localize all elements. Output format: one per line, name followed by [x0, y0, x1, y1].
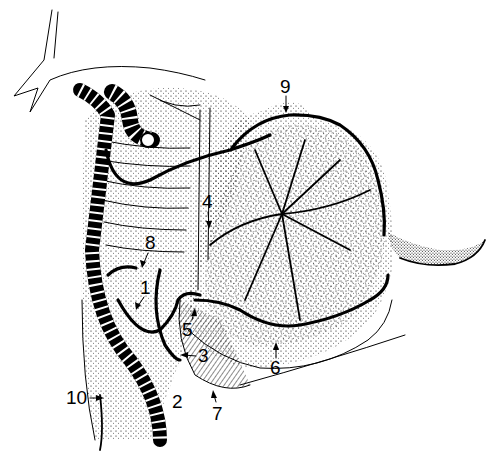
label-6-text: 6 [270, 357, 281, 378]
label-8-text: 8 [145, 232, 156, 253]
label-10-text: 10 [66, 387, 87, 408]
label-7: 7 [211, 390, 223, 424]
label-7-text: 7 [212, 403, 223, 424]
label-2-text: 2 [172, 391, 183, 412]
vermis-extension [388, 232, 485, 265]
label-2: 2 [172, 391, 183, 412]
label-3-text: 3 [198, 345, 209, 366]
label-1-text: 1 [140, 277, 151, 298]
label-5-text: 5 [182, 319, 193, 340]
label-4-text: 4 [202, 191, 213, 212]
label-9-text: 9 [280, 76, 291, 97]
anatomical-illustration: 9 4 8 1 5 3 2 [0, 0, 497, 470]
cerebellum [179, 102, 485, 388]
